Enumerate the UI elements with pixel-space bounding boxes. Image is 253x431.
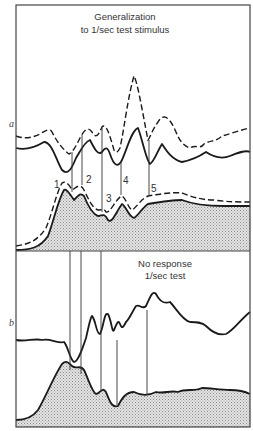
panel-b-title-line1: No response (138, 258, 192, 269)
panel-b-shaded-area (16, 362, 250, 427)
panel-a-label: a (9, 118, 14, 129)
panel-b-solid-upper-trace (16, 293, 250, 362)
marker-label-1: 1 (54, 179, 60, 190)
panel-a-solid-upper-trace (16, 128, 250, 172)
panel-a-title-line2: to 1/sec test stimulus (81, 24, 170, 35)
panel-b-label: b (9, 317, 14, 328)
panel-a-dashed-upper-trace (16, 76, 250, 154)
panel-a-title-line1: Generalization (94, 11, 155, 22)
marker-label-3: 3 (106, 193, 112, 204)
panel-a: Generalization to 1/sec test stimulus 12… (9, 11, 250, 251)
panel-a-shaded-area (16, 190, 250, 251)
marker-label-5: 5 (151, 183, 157, 194)
panel-b: No response 1/sec test b (9, 251, 250, 427)
evoked-potential-figure: Generalization to 1/sec test stimulus 12… (0, 0, 253, 431)
marker-label-4: 4 (123, 175, 129, 186)
marker-label-2: 2 (86, 174, 92, 185)
panel-b-title-line2: 1/sec test (145, 270, 186, 281)
